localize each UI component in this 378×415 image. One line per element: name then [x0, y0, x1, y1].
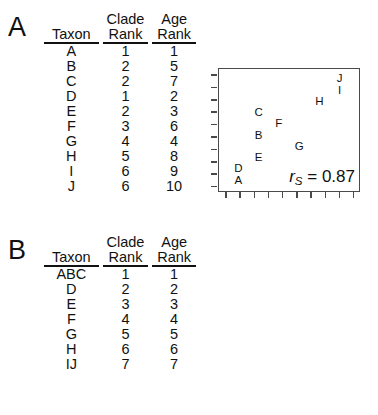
cell-taxon: G [44, 327, 99, 342]
cell-age-rank: 2 [152, 282, 196, 297]
column-header-clade-top: Clade [103, 12, 149, 27]
cell-clade-rank: 1 [103, 89, 149, 104]
y-axis-tick [211, 136, 217, 138]
column-header-age-rank: Age Rank [152, 235, 196, 267]
table-row: I69 [44, 164, 196, 179]
x-axis-tick [296, 192, 298, 198]
table-row: D22 [44, 282, 196, 297]
table-row: F36 [44, 119, 196, 134]
table-header-row: Taxon Clade Rank Age Rank [44, 12, 196, 44]
cell-age-rank: 4 [152, 134, 196, 149]
scatter-point-label: F [275, 119, 282, 131]
column-header-clade-rank: Clade Rank [103, 12, 149, 44]
cell-taxon: D [44, 282, 99, 297]
cell-taxon: B [44, 59, 99, 74]
column-header-clade-top: Clade [103, 235, 149, 250]
column-header-taxon-label: Taxon [52, 26, 91, 42]
cell-taxon: ABC [44, 267, 99, 282]
y-axis-tick [211, 173, 217, 175]
rs-value: = 0.87 [307, 167, 355, 186]
panel-a: A Taxon Clade Rank Age Rank A11B25C27D12… [0, 0, 378, 215]
y-axis-tick [211, 186, 217, 188]
table-row: H58 [44, 149, 196, 164]
panel-b: B Taxon Clade Rank Age Rank ABC11D22E33F… [0, 215, 378, 415]
column-header-taxon-label: Taxon [52, 249, 91, 265]
scatter-point-label: C [254, 107, 262, 119]
cell-taxon: G [44, 134, 99, 149]
panel-a-table-body: A11B25C27D12E23F36G44H58I69J610 [44, 44, 196, 194]
x-axis-tick [282, 192, 284, 198]
panel-a-rs-annotation: rS = 0.87 [289, 168, 355, 190]
cell-taxon: H [44, 342, 99, 357]
cell-age-rank: 6 [152, 119, 196, 134]
x-axis-tick [339, 192, 341, 198]
column-header-clade-bottom: Rank [109, 249, 143, 265]
table-row: D12 [44, 89, 196, 104]
cell-taxon: E [44, 104, 99, 119]
table-row: A11 [44, 44, 196, 59]
cell-age-rank: 4 [152, 312, 196, 327]
cell-clade-rank: 5 [103, 149, 149, 164]
cell-age-rank: 2 [152, 89, 196, 104]
column-header-age-top: Age [152, 12, 196, 27]
cell-age-rank: 1 [152, 44, 196, 59]
panel-a-scatter-plot: ABCDEFGHIJ rS = 0.87 [218, 68, 360, 192]
cell-taxon: E [44, 297, 99, 312]
x-axis-tick [239, 192, 241, 198]
x-axis-tick [310, 192, 312, 198]
cell-age-rank: 1 [152, 267, 196, 282]
cell-age-rank: 9 [152, 164, 196, 179]
y-axis-tick [211, 149, 217, 151]
x-axis-tick [353, 192, 355, 198]
panel-b-table-body: ABC11D22E33F44G55H66IJ77 [44, 267, 196, 372]
y-axis-tick [211, 74, 217, 76]
y-axis-tick [211, 161, 217, 163]
x-axis-tick [325, 192, 327, 198]
y-axis-tick [211, 87, 217, 89]
cell-clade-rank: 4 [103, 134, 149, 149]
x-axis-tick [268, 192, 270, 198]
scatter-point-label: J [337, 74, 343, 86]
panel-b-letter: B [8, 237, 26, 264]
cell-clade-rank: 1 [103, 267, 149, 282]
table-row: F44 [44, 312, 196, 327]
panel-a-rank-table: Taxon Clade Rank Age Rank A11B25C27D12E2… [44, 12, 196, 194]
cell-taxon: D [44, 89, 99, 104]
table-row: B25 [44, 59, 196, 74]
column-header-clade-rank: Clade Rank [103, 235, 149, 267]
y-axis-tick [211, 124, 217, 126]
cell-taxon: J [44, 179, 99, 194]
cell-clade-rank: 4 [103, 312, 149, 327]
cell-taxon: C [44, 74, 99, 89]
cell-clade-rank: 2 [103, 104, 149, 119]
scatter-point-label: B [255, 130, 263, 142]
scatter-point-label: A [234, 175, 242, 187]
column-header-age-rank: Age Rank [152, 12, 196, 44]
cell-clade-rank: 2 [103, 74, 149, 89]
cell-taxon: IJ [44, 357, 99, 372]
scatter-point-label: E [255, 152, 263, 164]
scatter-point-label: H [315, 96, 323, 108]
cell-clade-rank: 6 [103, 179, 149, 194]
table-row: G44 [44, 134, 196, 149]
scatter-point-label: D [234, 164, 242, 176]
cell-age-rank: 7 [152, 357, 196, 372]
table-header-row: Taxon Clade Rank Age Rank [44, 235, 196, 267]
cell-age-rank: 10 [152, 179, 196, 194]
cell-clade-rank: 2 [103, 59, 149, 74]
y-axis-tick [211, 99, 217, 101]
cell-clade-rank: 6 [103, 164, 149, 179]
column-header-taxon: Taxon [44, 12, 99, 44]
cell-clade-rank: 3 [103, 297, 149, 312]
column-header-clade-bottom: Rank [109, 26, 143, 42]
y-axis-tick [211, 111, 217, 113]
table-row: C27 [44, 74, 196, 89]
cell-clade-rank: 2 [103, 282, 149, 297]
column-header-age-top: Age [152, 235, 196, 250]
cell-age-rank: 3 [152, 297, 196, 312]
cell-age-rank: 8 [152, 149, 196, 164]
scatter-point-label: I [338, 85, 341, 97]
rs-subscript: S [295, 175, 303, 187]
scatter-point-label: G [295, 141, 304, 153]
cell-age-rank: 5 [152, 59, 196, 74]
